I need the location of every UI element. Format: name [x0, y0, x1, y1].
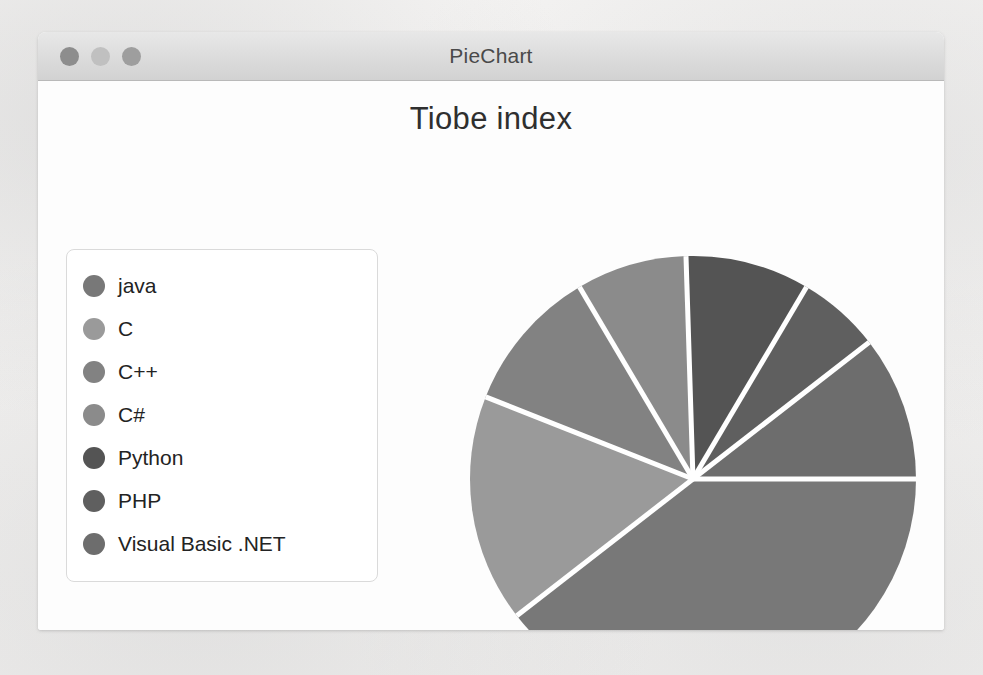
legend-swatch-icon [83, 404, 105, 426]
application-window: PieChart Tiobe index java C C++ C# [38, 32, 944, 630]
legend-item[interactable]: C# [83, 393, 361, 436]
legend-item-label: Visual Basic .NET [118, 532, 286, 556]
legend-swatch-icon [83, 361, 105, 383]
legend-swatch-icon [83, 533, 105, 555]
pie-chart [432, 209, 932, 630]
window-title: PieChart [38, 44, 944, 68]
window-controls [60, 47, 141, 66]
legend-item-label: Python [118, 446, 183, 470]
legend-item[interactable]: java [83, 264, 361, 307]
legend-swatch-icon [83, 447, 105, 469]
pie-chart-svg[interactable] [432, 209, 932, 630]
legend-item[interactable]: Python [83, 436, 361, 479]
legend-item-label: C++ [118, 360, 158, 384]
close-button-icon[interactable] [60, 47, 79, 66]
legend-item[interactable]: PHP [83, 479, 361, 522]
window-content: Tiobe index java C C++ C# Python [38, 81, 944, 630]
minimize-button-icon[interactable] [91, 47, 110, 66]
legend-item[interactable]: C [83, 307, 361, 350]
legend-item[interactable]: C++ [83, 350, 361, 393]
legend-item-label: PHP [118, 489, 161, 513]
legend-swatch-icon [83, 275, 105, 297]
chart-title: Tiobe index [38, 101, 944, 137]
maximize-button-icon[interactable] [122, 47, 141, 66]
legend-item-label: java [118, 274, 157, 298]
legend-item[interactable]: Visual Basic .NET [83, 522, 361, 565]
legend-item-label: C# [118, 403, 145, 427]
legend-swatch-icon [83, 490, 105, 512]
chart-legend: java C C++ C# Python PHP [66, 249, 378, 582]
window-titlebar[interactable]: PieChart [38, 32, 944, 81]
legend-swatch-icon [83, 318, 105, 340]
legend-item-label: C [118, 317, 133, 341]
